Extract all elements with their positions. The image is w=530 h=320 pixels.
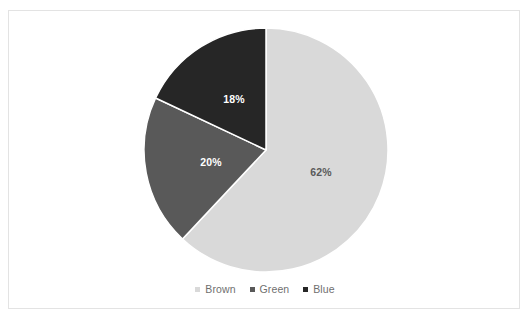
- pie-chart-plot-area: 62%20%18%: [0, 0, 530, 320]
- legend-swatch-icon-brown: [195, 287, 200, 292]
- pie-slice-group: [144, 28, 388, 272]
- legend-item-brown[interactable]: Brown: [195, 283, 235, 295]
- legend-swatch-icon-blue: [303, 287, 308, 292]
- pie-data-label-green: 20%: [200, 156, 222, 168]
- legend-swatch-icon-green: [250, 287, 255, 292]
- legend-item-blue[interactable]: Blue: [303, 283, 334, 295]
- legend-label: Brown: [205, 283, 235, 295]
- pie-data-label-brown: 62%: [310, 166, 332, 178]
- legend-label: Green: [260, 283, 290, 295]
- pie-data-label-blue: 18%: [223, 93, 245, 105]
- legend-item-green[interactable]: Green: [250, 283, 290, 295]
- pie-chart-svg: [0, 0, 530, 320]
- legend-label: Blue: [313, 283, 334, 295]
- chart-legend: BrownGreenBlue: [0, 283, 530, 295]
- chart-canvas: 62%20%18% BrownGreenBlue: [0, 0, 530, 320]
